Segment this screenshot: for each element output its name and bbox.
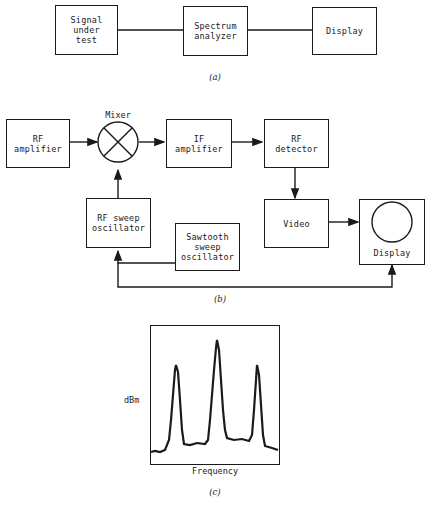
block-label: RF amplifier [14, 134, 62, 154]
y-axis-label: dBm [124, 395, 148, 405]
caption-b: (b) [200, 294, 240, 304]
x-axis-label: Frequency [175, 466, 255, 476]
block-signal-under-test: Signal under test [55, 5, 118, 55]
block-label: Sawtooth sweep oscillator [181, 232, 234, 262]
caption-a: (a) [195, 72, 235, 82]
block-rf-detector: RF detector [264, 119, 329, 168]
block-label: IF amplifier [175, 134, 223, 154]
block-label: Spectrum analyzer [194, 21, 237, 41]
block-display: Display [312, 7, 377, 55]
block-spectrum-analyzer: Spectrum analyzer [183, 6, 248, 56]
spectrum-plot-frame [150, 325, 280, 465]
block-label: Signal under test [71, 15, 103, 45]
block-label: Display [326, 26, 363, 36]
block-video: Video [264, 199, 329, 248]
block-label: Display [373, 248, 410, 258]
block-rf-sweep-oscillator: RF sweep oscillator [86, 198, 151, 248]
block-display-crt: Display [359, 199, 425, 265]
mixer-label: Mixer [98, 110, 138, 120]
caption-c: (c) [195, 487, 235, 497]
block-label: RF detector [275, 134, 318, 154]
block-label: Video [283, 219, 310, 229]
block-sawtooth-sweep-oscillator: Sawtooth sweep oscillator [175, 223, 240, 271]
block-if-amplifier: IF amplifier [166, 119, 232, 168]
block-label: RF sweep oscillator [92, 213, 145, 233]
block-rf-amplifier: RF amplifier [6, 119, 70, 168]
